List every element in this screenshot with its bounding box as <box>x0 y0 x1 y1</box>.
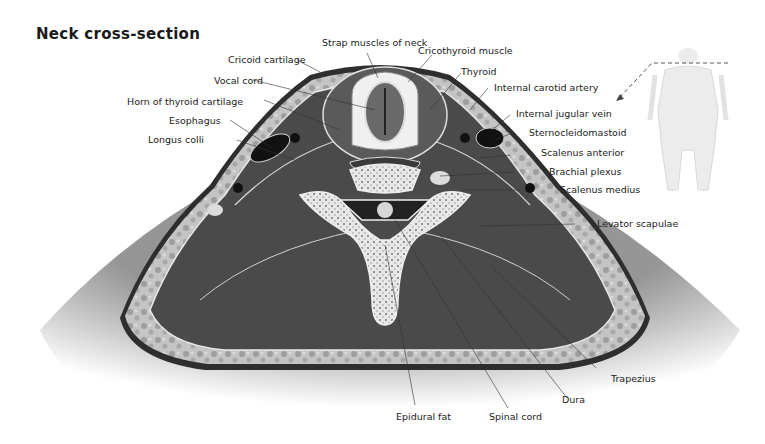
label-vocal-cord: Vocal cord <box>214 75 263 86</box>
label-longus-colli: Longus colli <box>148 134 204 145</box>
label-levator-scapulae: Levator scapulae <box>597 218 678 229</box>
label-trapezius: Trapezius <box>611 373 656 384</box>
label-horn-of-thyroid-cartilage: Horn of thyroid cartilage <box>127 96 243 107</box>
body-outline-icon <box>650 48 726 190</box>
label-epidural-fat: Epidural fat <box>396 411 451 422</box>
label-thyroid: Thyroid <box>461 66 497 77</box>
label-sternocleidomastoid: Sternocleidomastoid <box>529 127 627 138</box>
label-dura: Dura <box>562 394 585 405</box>
label-esophagus: Esophagus <box>169 115 221 126</box>
label-scalenus-medius: Scalenus medius <box>560 184 640 195</box>
label-internal-jugular-vein: Internal jugular vein <box>516 108 612 119</box>
label-cricothyroid-muscle: Cricothyroid muscle <box>418 45 513 56</box>
label-scalenus-anterior: Scalenus anterior <box>541 147 624 158</box>
label-spinal-cord: Spinal cord <box>489 411 542 422</box>
page-title: Neck cross-section <box>36 25 200 43</box>
label-strap-muscles: Strap muscles of neck <box>322 37 427 48</box>
label-cricoid-cartilage: Cricoid cartilage <box>228 54 306 65</box>
label-internal-carotid-artery: Internal carotid artery <box>494 82 598 93</box>
label-brachial-plexus: Brachial plexus <box>549 166 622 177</box>
